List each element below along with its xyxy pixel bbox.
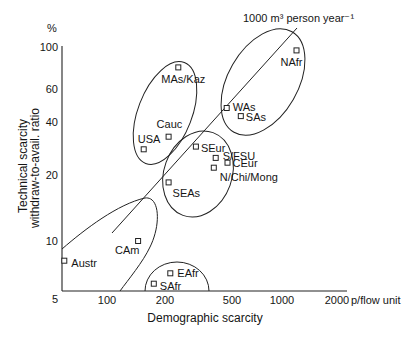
square-marker-icon <box>224 106 229 111</box>
square-marker-icon <box>136 239 141 244</box>
point-label: USA <box>138 133 161 145</box>
x-tick-label: 2000 <box>325 294 349 306</box>
group-ellipse-mas-cauc-usa <box>120 53 209 173</box>
square-marker-icon <box>166 134 171 139</box>
square-marker-icon <box>166 180 171 185</box>
data-point: NAfr <box>281 48 303 69</box>
x-tick-label: 1000 <box>270 294 294 306</box>
square-marker-icon <box>141 147 146 152</box>
threshold-line-1000m3 <box>112 28 297 233</box>
x-axis-title: Demographic scarcity <box>147 311 262 325</box>
square-marker-icon <box>294 48 299 53</box>
point-label: MAs/Kaz <box>161 73 205 85</box>
y-tick-label: 60 <box>46 83 58 95</box>
square-marker-icon <box>176 65 181 70</box>
threshold-line-label: 1000 m³ person year⁻¹ <box>243 12 354 24</box>
square-marker-icon <box>62 258 67 263</box>
square-marker-icon <box>238 114 243 119</box>
square-marker-icon <box>225 160 230 165</box>
data-point: SAfr <box>151 280 181 292</box>
square-marker-icon <box>213 155 218 160</box>
data-point: Austr <box>62 257 98 269</box>
data-point: MAs/Kaz <box>161 65 205 86</box>
data-point: SEur <box>193 142 225 154</box>
point-label: Cauc <box>157 118 183 130</box>
y-axis-title-line2: withdraw-to-avail. ratio <box>28 108 42 229</box>
point-label: N/Chi/Mong <box>220 171 278 183</box>
point-label: EAfr <box>177 267 199 279</box>
point-label: CAm <box>115 244 139 256</box>
data-point: CAm <box>115 239 141 257</box>
x-tick-label: 100 <box>98 294 116 306</box>
data-point: USA <box>138 133 161 152</box>
group-corner-region-cam-austr <box>62 198 157 291</box>
scatter-plot: % 5 10 20 40 60 100 100 200 500 1000 200… <box>0 0 416 338</box>
point-label: CEur <box>233 157 258 169</box>
y-tick-label: 20 <box>46 169 58 181</box>
square-marker-icon <box>193 144 198 149</box>
point-label: SEAs <box>173 187 201 199</box>
group-ellipse-nafr-was-sas <box>204 14 323 149</box>
point-label: SAs <box>246 111 267 123</box>
x-unit-label: p/flow unit <box>351 294 401 306</box>
point-label: NAfr <box>281 56 303 68</box>
y-tick-label: 10 <box>46 235 58 247</box>
y-tick-label: 40 <box>46 116 58 128</box>
data-point: EAfr <box>168 267 199 279</box>
y-unit-label: % <box>47 22 57 34</box>
square-marker-icon <box>168 271 173 276</box>
point-label: SAfr <box>160 280 182 292</box>
y-tick-label: 5 <box>52 293 58 305</box>
y-tick-label: 100 <box>40 41 58 53</box>
data-point: Cauc <box>157 118 183 140</box>
point-label: Austr <box>71 257 97 269</box>
data-points-layer: NAfrWAsSAsMAs/KazCaucUSASEurS/FSUCEurN/C… <box>62 48 303 292</box>
data-point: SEAs <box>166 180 201 200</box>
square-marker-icon <box>211 165 216 170</box>
x-tick-label: 500 <box>223 294 241 306</box>
square-marker-icon <box>151 281 156 286</box>
x-tick-label: 200 <box>156 294 174 306</box>
